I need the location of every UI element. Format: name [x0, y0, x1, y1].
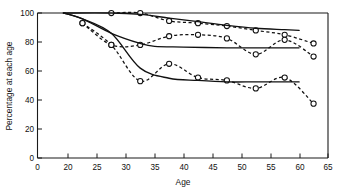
data-point-marker — [195, 75, 200, 80]
x-tick-label-65: 65 — [323, 163, 333, 172]
x-axis-title: Age — [176, 177, 191, 187]
x-tick-label-30: 30 — [121, 163, 131, 172]
y-tick-label-0: 0 — [29, 154, 34, 163]
data-point-marker — [311, 101, 316, 106]
data-point-marker — [138, 79, 143, 84]
series-2 — [80, 21, 316, 60]
series-layer — [63, 10, 316, 106]
y-tick-label-20: 20 — [25, 125, 35, 134]
data-point-marker — [167, 34, 172, 39]
data-point-marker — [253, 52, 258, 57]
y-tick-label-40: 40 — [25, 96, 35, 105]
x-axis-tick-labels: 0 20 25 30 35 40 45 50 55 60 65 — [35, 163, 333, 172]
series-line-3 — [63, 13, 299, 48]
y-axis-tick-labels: 0 20 40 60 80 100 — [20, 9, 34, 163]
data-point-marker — [167, 61, 172, 66]
x-tick-label-50: 50 — [237, 163, 247, 172]
data-point-marker — [282, 37, 287, 42]
line-chart: 0 20 40 60 80 100 0 20 25 30 35 — [0, 0, 339, 192]
series-3 — [63, 13, 299, 48]
y-tick-label-60: 60 — [25, 67, 35, 76]
y-tick-label-100: 100 — [20, 9, 34, 18]
x-tick-label-25: 25 — [92, 163, 102, 172]
data-point-marker — [109, 42, 114, 47]
x-tick-label-60: 60 — [295, 163, 305, 172]
x-tick-label-35: 35 — [150, 163, 160, 172]
y-axis-title: Percentage at each age — [4, 41, 14, 130]
x-axis-ticks — [38, 154, 329, 159]
y-tick-label-80: 80 — [25, 38, 35, 47]
data-point-marker — [282, 32, 287, 37]
x-tick-label-45: 45 — [208, 163, 218, 172]
data-point-marker — [311, 41, 316, 46]
data-point-marker — [80, 21, 85, 26]
y-axis-ticks — [38, 13, 43, 158]
data-point-marker — [167, 18, 172, 23]
data-point-marker — [311, 54, 316, 59]
x-tick-label-0: 0 — [35, 163, 40, 172]
x-tick-label-55: 55 — [266, 163, 276, 172]
data-point-marker — [253, 86, 258, 91]
data-point-marker — [195, 32, 200, 37]
x-tick-label-40: 40 — [179, 163, 189, 172]
data-point-marker — [224, 36, 229, 41]
data-point-marker — [282, 75, 287, 80]
x-tick-label-20: 20 — [63, 163, 73, 172]
chart-container: 0 20 40 60 80 100 0 20 25 30 35 — [0, 0, 339, 192]
